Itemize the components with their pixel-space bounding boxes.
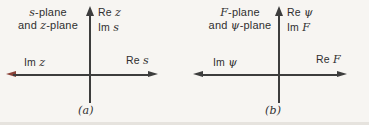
plane-title: F-plane and ψ-plane <box>193 6 287 32</box>
arrow-right-icon <box>148 71 158 77</box>
horizontal-axis <box>13 74 150 76</box>
caption-b: (b) <box>265 104 281 117</box>
vertical-axis-label-2: Im F <box>287 20 313 35</box>
horizontal-axis <box>200 74 339 76</box>
arrow-right-icon <box>337 71 347 77</box>
plane-title-line1: s-plane <box>6 6 90 19</box>
right-axis-label: Re F <box>316 53 341 66</box>
vertical-axis-labels: Re z Im s <box>98 5 121 35</box>
right-axis-label: Re s <box>126 54 149 67</box>
page-edge <box>0 122 369 125</box>
left-axis-label: Im ψ <box>213 56 237 69</box>
caption-a: (a) <box>78 104 94 117</box>
vertical-axis-label-1: Re ψ <box>287 5 313 20</box>
vertical-axis-label-1: Re z <box>98 5 121 20</box>
vertical-axis-label-2: Im s <box>98 20 121 35</box>
left-axis-label: Im z <box>24 56 45 69</box>
vertical-axis-labels: Re ψ Im F <box>287 5 313 35</box>
diagram-b: F-plane and ψ-plane Re ψ Im F Im ψ Re F … <box>185 0 369 125</box>
plane-title: s-plane and z-plane <box>6 6 90 32</box>
diagram-a: s-plane and z-plane Re z Im s Im z Re s … <box>0 0 185 125</box>
plane-title-line2: and ψ-plane <box>193 19 287 32</box>
plane-title-line2: and z-plane <box>6 19 90 32</box>
figure-complex-planes: s-plane and z-plane Re z Im s Im z Re s … <box>0 0 369 125</box>
plane-title-line1: F-plane <box>193 6 287 19</box>
